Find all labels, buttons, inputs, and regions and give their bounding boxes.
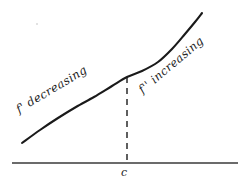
x-axis-label-c: c [121,166,127,179]
function-curve [22,13,202,143]
scan-artifact-speck [36,23,38,25]
inflection-point-figure: f' decreasing f'' increasing c [0,0,245,188]
